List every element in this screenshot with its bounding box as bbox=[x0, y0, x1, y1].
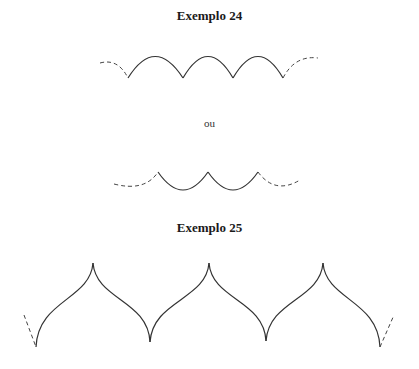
example-25-ogee bbox=[24, 263, 394, 347]
example-24-variant-a bbox=[100, 57, 318, 79]
diagram-canvas bbox=[0, 0, 419, 369]
example-24-variant-b bbox=[114, 172, 300, 190]
